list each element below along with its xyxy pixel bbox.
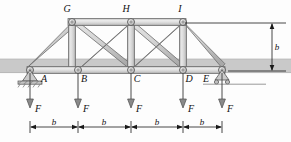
label-dim-span-1: b <box>52 117 57 127</box>
label-load-C: F <box>135 103 143 114</box>
member-vertical-B-G <box>69 22 76 70</box>
label-joint-H: H <box>121 3 130 14</box>
label-joint-G: G <box>63 3 70 14</box>
label-dim-span-4: b <box>200 117 205 127</box>
label-dim-span-2: b <box>102 117 107 127</box>
load-labels: F F F F F <box>34 103 234 114</box>
member-vertical-D-I <box>180 22 187 70</box>
label-dim-span-3: b <box>155 117 160 127</box>
member-vertical-C-H <box>128 22 135 70</box>
label-load-B: F <box>82 103 90 114</box>
label-joint-D: D <box>184 73 193 84</box>
label-load-E: F <box>226 103 234 114</box>
label-joint-E: E <box>202 73 209 84</box>
member-bottom-chord-A-E <box>27 67 225 74</box>
horizontal-dimensions <box>30 121 222 133</box>
load-arrows <box>27 73 226 108</box>
member-top-chord-G-I <box>68 19 186 26</box>
label-load-A: F <box>34 103 42 114</box>
label-joint-I: I <box>177 3 182 14</box>
joint-G <box>69 19 76 26</box>
figure-canvas: G H I A B C D E F F F F F b b b b b <box>0 0 291 142</box>
label-joint-C: C <box>134 73 141 84</box>
label-joint-B: B <box>81 73 87 84</box>
label-joint-A: A <box>40 73 48 84</box>
label-load-D: F <box>187 103 195 114</box>
joint-H <box>128 19 135 26</box>
label-dim-height: b <box>275 42 280 52</box>
joint-I <box>180 19 187 26</box>
